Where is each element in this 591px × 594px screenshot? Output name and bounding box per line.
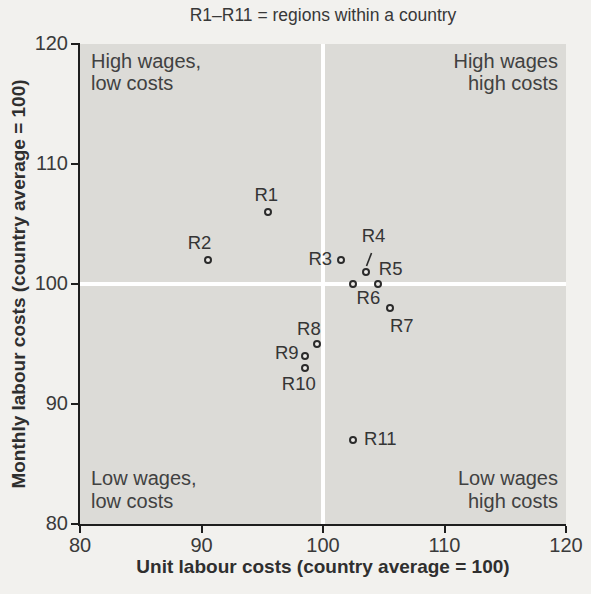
data-point-R11 (349, 436, 357, 444)
y-tick-label-120: 120 (35, 32, 68, 55)
y-tick-110 (71, 163, 78, 165)
data-point-R3 (337, 256, 345, 264)
data-point-R7 (386, 304, 394, 312)
x-tick-120 (565, 526, 567, 533)
point-label-R11: R11 (364, 428, 397, 450)
x-tick-label-120: 120 (549, 534, 582, 557)
quadrant-label-bottom-left: Low wages, low costs (91, 467, 197, 512)
gridline-y-100 (80, 282, 566, 286)
quadrant-label-top-left: High wages, low costs (91, 50, 201, 95)
point-label-R1: R1 (254, 184, 278, 206)
x-tick-100 (322, 526, 324, 533)
point-label-R6: R6 (357, 287, 381, 309)
x-tick-label-110: 110 (429, 534, 461, 557)
point-label-R4: R4 (362, 225, 386, 247)
y-tick-80 (71, 523, 78, 525)
y-tick-label-80: 80 (46, 512, 68, 535)
point-label-R10: R10 (282, 373, 316, 395)
point-label-R5: R5 (379, 258, 403, 280)
x-tick-110 (444, 526, 446, 533)
y-tick-label-110: 110 (36, 152, 68, 175)
point-label-R7: R7 (390, 315, 414, 337)
data-point-R9 (301, 352, 309, 360)
data-point-R2 (204, 256, 212, 264)
x-tick-label-90: 90 (190, 534, 212, 557)
point-label-R9: R9 (275, 342, 299, 364)
x-tick-label-100: 100 (306, 534, 339, 557)
point-label-R2: R2 (188, 232, 212, 254)
y-tick-label-100: 100 (35, 272, 68, 295)
scatter-chart-figure: R1–R11 = regions within a country Monthl… (0, 0, 591, 594)
x-tick-90 (201, 526, 203, 533)
data-point-R10 (301, 364, 309, 372)
x-tick-80 (79, 526, 81, 533)
quadrant-label-top-right: High wages high costs (453, 50, 558, 95)
x-tick-label-80: 80 (69, 534, 91, 557)
data-point-R1 (264, 208, 272, 216)
point-label-R3: R3 (308, 248, 332, 270)
y-axis-label: Monthly labour costs (country average = … (8, 79, 30, 488)
y-tick-120 (71, 43, 78, 45)
data-point-R4 (362, 268, 370, 276)
y-tick-100 (71, 283, 78, 285)
chart-title: R1–R11 = regions within a country (80, 5, 566, 26)
x-axis-label: Unit labour costs (country average = 100… (80, 556, 566, 578)
y-tick-label-90: 90 (46, 392, 68, 415)
point-label-R8: R8 (297, 318, 321, 340)
data-point-R8 (313, 340, 321, 348)
y-tick-90 (71, 403, 78, 405)
quadrant-label-bottom-right: Low wages high costs (458, 467, 558, 512)
